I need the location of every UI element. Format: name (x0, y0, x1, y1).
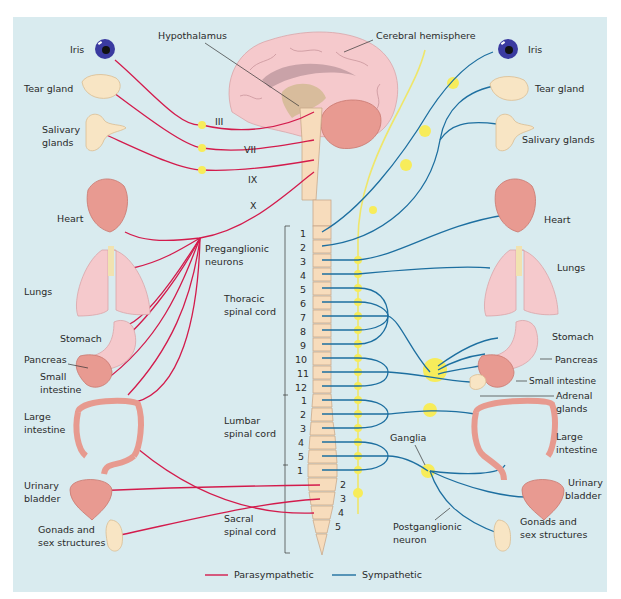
left-urinary-label-1: Urinary (24, 480, 59, 491)
ganglia-label: Ganglia (390, 432, 426, 443)
left-iris-icon (95, 39, 115, 59)
cervical-segment (313, 200, 331, 226)
left-gonads-icon (106, 520, 123, 551)
left-stomach-label: Stomach (60, 333, 102, 344)
right-urinary-label-2: bladder (565, 490, 601, 501)
left-large-intestine-label-1: Large (24, 411, 51, 422)
svg-text:5: 5 (298, 451, 304, 462)
svg-text:4: 4 (338, 507, 344, 518)
svg-text:6: 6 (300, 298, 306, 309)
cerebral-hemisphere-label: Cerebral hemisphere (376, 30, 476, 41)
cranial-nerve-IX: IX (248, 174, 258, 185)
left-salivary-gland-icon (86, 114, 126, 151)
right-gonads-label-1: Gonads and (520, 516, 577, 527)
postganglionic-label-2: neuron (393, 534, 426, 545)
sacral-label-2: spinal cord (224, 526, 276, 537)
right-large-intestine-label-2: intestine (556, 444, 598, 455)
preganglionic-label-2: neurons (205, 256, 243, 267)
ans-diagram: Hypothalamus Cerebral hemisphere (0, 0, 621, 599)
left-tear-gland-icon (82, 75, 120, 99)
cerebellum-shape (321, 100, 381, 149)
cranial-nerve-X: X (250, 200, 257, 211)
right-urinary-label-1: Urinary (568, 477, 603, 488)
left-salivary-label-2: glands (42, 137, 74, 148)
thoracic-label-2: spinal cord (224, 306, 276, 317)
right-adrenal-gland-icon (470, 375, 486, 390)
cranial-nerve-III: III (215, 116, 223, 127)
left-large-intestine-label-2: intestine (24, 424, 66, 435)
legend-parasympathetic-label: Parasympathetic (234, 569, 314, 580)
left-large-intestine-icon (76, 401, 141, 474)
cranial-nerve-VII: VII (244, 144, 256, 155)
spinal-cord (308, 200, 337, 555)
left-gonads-label-2: sex structures (38, 537, 105, 548)
right-gonads-icon (494, 520, 511, 551)
svg-text:1: 1 (301, 395, 307, 406)
right-pancreas-label: Pancreas (555, 354, 598, 365)
postganglionic-leader (435, 508, 450, 520)
svg-text:2: 2 (340, 479, 346, 490)
svg-text:3: 3 (300, 256, 306, 267)
right-large-intestine-label-1: Large (556, 431, 583, 442)
preganglionic-label-1: Preganglionic (205, 243, 269, 254)
sacral-label-1: Sacral (224, 513, 253, 524)
cranial-ganglia (198, 121, 206, 174)
left-heart-label: Heart (57, 213, 84, 224)
right-lungs-label: Lungs (557, 262, 585, 273)
right-urinary-bladder-icon (522, 480, 564, 521)
svg-text:5: 5 (335, 521, 341, 532)
legend: Parasympathetic Sympathetic (205, 569, 422, 580)
svg-text:1: 1 (297, 465, 303, 476)
left-iris-label: Iris (70, 44, 84, 55)
lumbar-numbers: 1 2 3 4 5 (298, 395, 307, 462)
left-salivary-label-1: Salivary (42, 124, 80, 135)
right-heart-label: Heart (544, 214, 571, 225)
svg-text:7: 7 (300, 312, 306, 323)
thoracic-segments (313, 226, 331, 393)
svg-text:3: 3 (340, 493, 346, 504)
thoracic-numbers: 1 2 3 4 5 6 7 8 9 10 11 12 (295, 228, 309, 393)
left-urinary-bladder-icon (70, 480, 112, 521)
legend-sympathetic-label: Sympathetic (362, 569, 422, 580)
lumbar-sacral-segments (308, 394, 337, 555)
right-adrenal-label-1: Adrenal (556, 390, 592, 401)
left-lungs-icon (76, 246, 150, 316)
right-small-intestine-label: Small intestine (529, 376, 597, 386)
right-tear-gland-icon (490, 77, 528, 101)
left-lungs-label: Lungs (24, 286, 52, 297)
svg-text:10: 10 (295, 354, 307, 365)
brainstem-shape (300, 108, 322, 200)
svg-text:11: 11 (297, 368, 309, 379)
svg-text:2: 2 (300, 409, 306, 420)
svg-text:4: 4 (298, 437, 304, 448)
postganglionic-label-1: Postganglionic (393, 521, 462, 532)
left-urinary-label-2: bladder (24, 493, 60, 504)
right-gonads-label-2: sex structures (520, 529, 587, 540)
svg-text:12: 12 (295, 382, 307, 393)
left-small-intestine-label-2: intestine (40, 384, 82, 395)
left-pancreas-label: Pancreas (24, 354, 67, 365)
left-small-intestine-label-1: Small (40, 371, 66, 382)
svg-text:1: 1 (300, 228, 306, 239)
svg-text:2: 2 (300, 242, 306, 253)
right-stomach-label: Stomach (552, 331, 594, 342)
svg-text:8: 8 (300, 326, 306, 337)
right-large-intestine-icon (474, 401, 555, 480)
right-lungs-icon (484, 246, 558, 316)
left-heart-icon (87, 179, 127, 232)
svg-text:4: 4 (300, 270, 306, 281)
right-heart-icon (495, 179, 535, 232)
lumbar-label-1: Lumbar (224, 415, 260, 426)
ganglia-leader (415, 445, 425, 465)
right-adrenal-label-2: glands (556, 403, 588, 414)
thoracic-label-1: Thoracic (223, 293, 264, 304)
left-tear-gland-label: Tear gland (23, 83, 73, 94)
svg-text:9: 9 (300, 340, 306, 351)
svg-text:5: 5 (300, 284, 306, 295)
spinal-region-bracket (285, 226, 290, 553)
right-salivary-gland-icon (496, 114, 534, 151)
right-iris-label: Iris (528, 44, 542, 55)
right-tear-gland-label: Tear gland (534, 83, 584, 94)
left-gonads-label-1: Gonads and (38, 524, 95, 535)
right-iris-icon (498, 39, 518, 59)
